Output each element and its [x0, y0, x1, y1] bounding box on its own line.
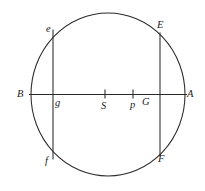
point-label-G: G — [142, 97, 150, 108]
point-label-e: e — [46, 24, 51, 35]
point-label-F: F — [158, 154, 164, 165]
point-label-g: g — [55, 98, 60, 109]
point-label-B: B — [17, 89, 23, 100]
point-label-A: A — [187, 89, 193, 100]
point-label-E: E — [157, 20, 163, 31]
figure-canvas — [0, 0, 205, 191]
point-label-S: S — [101, 101, 106, 112]
point-label-p: p — [130, 100, 135, 111]
point-label-f: f — [45, 156, 48, 167]
geometry-figure: B A e E f F g G S p — [0, 0, 205, 191]
